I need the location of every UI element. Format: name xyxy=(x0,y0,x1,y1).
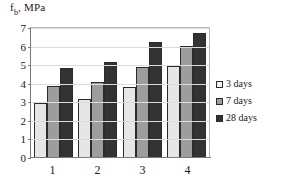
gridline xyxy=(31,47,209,48)
legend-label: 3 days xyxy=(226,79,252,89)
plot-area: 01234567 xyxy=(30,27,210,157)
bar[interactable] xyxy=(123,87,136,157)
y-axis-tick-label: 1 xyxy=(21,134,27,145)
y-axis-tick-mark xyxy=(28,65,31,66)
bar[interactable] xyxy=(193,33,206,157)
y-axis-tick-label: 6 xyxy=(21,41,27,52)
y-axis-tick-label: 2 xyxy=(21,115,27,126)
y-axis-tick-mark xyxy=(28,102,31,103)
y-axis-tick-mark xyxy=(28,139,31,140)
y-axis-tick-label: 7 xyxy=(21,23,27,34)
y-axis-tick-mark xyxy=(28,47,31,48)
legend-item[interactable]: 3 days xyxy=(216,79,257,89)
bar[interactable] xyxy=(60,68,73,157)
x-axis-tick-label: 2 xyxy=(75,160,120,182)
gridline xyxy=(31,65,209,66)
gridline xyxy=(31,121,209,122)
x-axis-line xyxy=(30,157,211,158)
y-axis-tick-mark xyxy=(28,158,31,159)
legend-item[interactable]: 7 days xyxy=(216,96,257,106)
legend-label: 28 days xyxy=(226,113,257,123)
bar[interactable] xyxy=(34,103,47,157)
legend-swatch xyxy=(216,81,223,88)
gridline xyxy=(31,139,209,140)
y-axis-tick-label: 4 xyxy=(21,78,27,89)
x-axis-tick-labels: 1234 xyxy=(30,160,210,182)
gridline xyxy=(31,28,209,29)
bar[interactable] xyxy=(136,67,149,157)
x-axis-tick-label: 4 xyxy=(165,160,210,182)
y-axis-title: fb, MPa xyxy=(10,1,45,16)
y-axis-tick-label: 5 xyxy=(21,60,27,71)
y-axis-title-units: , MPa xyxy=(18,1,45,13)
x-axis-tick-label: 1 xyxy=(30,160,75,182)
bar[interactable] xyxy=(104,62,117,157)
y-axis-tick-mark xyxy=(28,84,31,85)
y-axis-tick-label: 3 xyxy=(21,97,27,108)
bar-chart-figure: fb, MPa 01234567 1234 3 days7 days28 day… xyxy=(0,0,282,187)
y-axis-tick-label: 0 xyxy=(21,153,27,164)
gridline xyxy=(31,84,209,85)
y-axis-tick-mark xyxy=(28,28,31,29)
legend-item[interactable]: 28 days xyxy=(216,113,257,123)
bar[interactable] xyxy=(78,99,91,158)
legend-swatch xyxy=(216,115,223,122)
y-axis-title-subscript: b xyxy=(14,8,18,17)
chart-legend: 3 days7 days28 days xyxy=(216,79,257,123)
bar[interactable] xyxy=(91,82,104,157)
legend-swatch xyxy=(216,98,223,105)
x-axis-tick-label: 3 xyxy=(120,160,165,182)
y-axis-tick-mark xyxy=(28,121,31,122)
gridline xyxy=(31,102,209,103)
bar[interactable] xyxy=(167,66,180,157)
legend-label: 7 days xyxy=(226,96,252,106)
